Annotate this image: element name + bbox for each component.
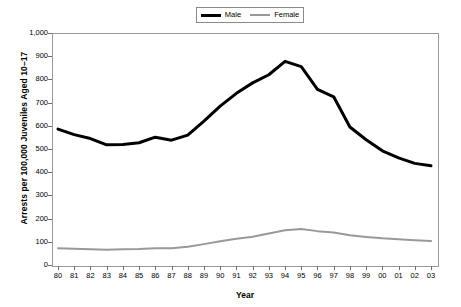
x-tick-mark [123,266,124,270]
x-tick-mark [350,266,351,270]
x-tick-mark [382,266,383,270]
x-axis-title: Year [52,290,438,300]
x-tick-mark [269,266,270,270]
x-tick-mark [317,266,318,270]
x-tick-mark [431,266,432,270]
x-tick-mark [415,266,416,270]
x-tick-mark [90,266,91,270]
x-tick-mark [204,266,205,270]
x-tick-label: 03 [421,272,441,280]
chart-figure: Male Female Arrests per 100,000 Juvenile… [0,0,461,307]
x-tick-mark [334,266,335,270]
x-tick-mark [399,266,400,270]
x-tick-mark [58,266,59,270]
x-tick-mark [253,266,254,270]
x-tick-mark [74,266,75,270]
x-tick-mark [139,266,140,270]
x-tick-mark [188,266,189,270]
x-axis-ticks: 8081828384858687888990919293949596979899… [0,0,461,307]
x-tick-mark [172,266,173,270]
x-tick-mark [366,266,367,270]
x-tick-mark [107,266,108,270]
x-tick-mark [285,266,286,270]
x-tick-mark [301,266,302,270]
x-tick-mark [220,266,221,270]
x-tick-mark [236,266,237,270]
x-tick-mark [155,266,156,270]
